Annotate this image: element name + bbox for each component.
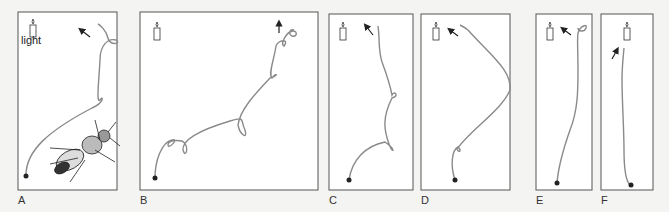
panel-label-a: A (18, 194, 25, 206)
start-dot (629, 183, 634, 188)
start-dot (24, 174, 29, 179)
start-dot (153, 176, 158, 181)
panel-label-f: F (601, 194, 608, 206)
start-dot (555, 181, 560, 186)
panel-label-e: E (536, 194, 543, 206)
flight-path-figure (0, 0, 669, 212)
panel-label-b: B (140, 194, 147, 206)
panel-b-frame (140, 12, 318, 190)
candle-label: light (21, 34, 41, 46)
start-dot (347, 178, 352, 183)
panel-f-frame (601, 14, 653, 190)
start-dot (453, 178, 458, 183)
panel-c-frame (329, 14, 413, 190)
panel-label-d: D (421, 194, 429, 206)
panel-e-frame (536, 14, 592, 190)
panel-label-c: C (329, 194, 337, 206)
panel-d-frame (421, 14, 510, 190)
